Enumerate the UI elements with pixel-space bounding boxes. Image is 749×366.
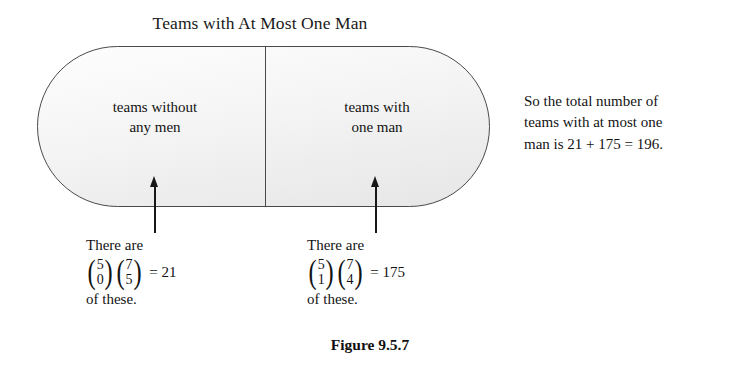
- region-left-line1: teams without: [113, 99, 198, 115]
- paren-open-icon: (: [337, 257, 345, 287]
- arrow-shaft-left: [154, 184, 156, 233]
- binomial-5-choose-0: ( 5 0 ): [86, 255, 115, 289]
- side-note-line-2: teams with at most one: [524, 112, 738, 133]
- arrow-shaft-right: [375, 184, 377, 233]
- annotation-left: There are ( 5 0 ) ( 7 5 ) = 21 of these.: [86, 236, 177, 308]
- paren-open-icon: (: [116, 257, 124, 287]
- paren-close-icon: ): [355, 257, 363, 287]
- paren-open-icon: (: [88, 257, 96, 287]
- annotation-right-trail: of these.: [307, 290, 405, 308]
- annotation-right-formula: ( 5 1 ) ( 7 4 ) = 175: [307, 255, 405, 289]
- annotation-right: There are ( 5 1 ) ( 7 4 ) = 175 of these…: [307, 236, 405, 308]
- paren-close-icon: ): [326, 257, 334, 287]
- stadium-divider-line: [265, 46, 266, 207]
- annotation-right-lead: There are: [307, 236, 405, 254]
- side-explanation-note: So the total number of teams with at mos…: [524, 91, 738, 155]
- figure-caption: Figure 9.5.7: [270, 336, 470, 354]
- binom-1-top: 5: [97, 258, 104, 272]
- annotation-left-lead: There are: [86, 236, 177, 254]
- paren-open-icon: (: [309, 257, 317, 287]
- binom-1-bottom: 0: [97, 273, 104, 287]
- binom-2-bottom: 4: [346, 273, 353, 287]
- region-right-line1: teams with: [344, 99, 409, 115]
- annotation-left-result: = 21: [149, 263, 176, 281]
- binomial-7-choose-5: ( 7 5 ): [115, 255, 144, 289]
- binom-2-top: 7: [346, 258, 353, 272]
- annotation-left-trail: of these.: [86, 290, 177, 308]
- region-left-line2: any men: [129, 119, 180, 135]
- figure-9-5-7: Teams with At Most One Man teams without…: [0, 0, 749, 366]
- stadium-diagram: teams without any men teams with one man: [37, 46, 490, 207]
- annotation-left-formula: ( 5 0 ) ( 7 5 ) = 21: [86, 255, 177, 289]
- diagram-title: Teams with At Most One Man: [0, 14, 520, 33]
- binomial-7-choose-4: ( 7 4 ): [336, 255, 365, 289]
- binom-1-bottom: 1: [318, 273, 325, 287]
- binom-2-top: 7: [125, 258, 132, 272]
- annotation-right-result: = 175: [370, 263, 405, 281]
- binom-2-bottom: 5: [125, 273, 132, 287]
- paren-close-icon: ): [105, 257, 113, 287]
- side-note-line-1: So the total number of: [524, 91, 738, 112]
- region-label-teams-with-one-man: teams with one man: [267, 98, 487, 138]
- side-note-line-3: man is 21 + 175 = 196.: [524, 134, 738, 155]
- binomial-5-choose-1: ( 5 1 ): [307, 255, 336, 289]
- region-right-line2: one man: [351, 119, 402, 135]
- binom-1-top: 5: [318, 258, 325, 272]
- region-label-teams-without-any-men: teams without any men: [45, 98, 265, 138]
- paren-close-icon: ): [134, 257, 142, 287]
